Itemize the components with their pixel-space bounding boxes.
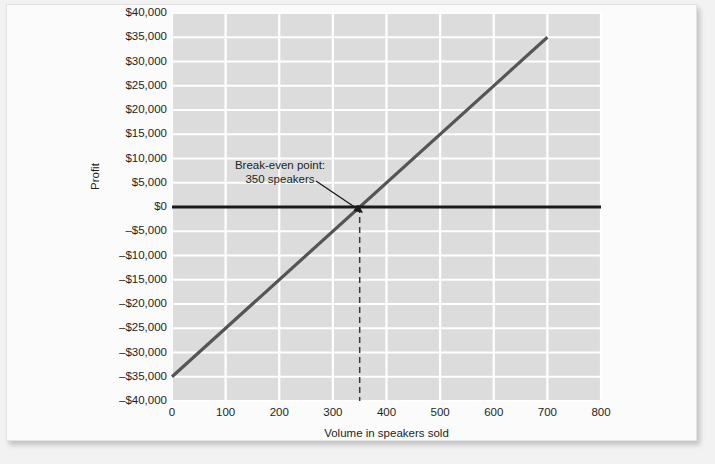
y-tick-label: –$20,000 bbox=[77, 298, 167, 310]
y-tick-label: –$40,000 bbox=[77, 395, 167, 407]
y-tick-label: $15,000 bbox=[77, 129, 167, 141]
y-tick-label: $0 bbox=[77, 201, 167, 213]
y-tick-label: –$15,000 bbox=[77, 274, 167, 286]
x-tick-label: 500 bbox=[410, 407, 470, 419]
y-tick-label: –$5,000 bbox=[77, 226, 167, 238]
y-tick-label: $30,000 bbox=[77, 56, 167, 68]
x-tick-label: 800 bbox=[571, 407, 631, 419]
y-tick-label: $25,000 bbox=[77, 80, 167, 92]
x-tick-label: 100 bbox=[196, 407, 256, 419]
y-tick-label: –$35,000 bbox=[77, 371, 167, 383]
x-tick-label: 400 bbox=[357, 407, 417, 419]
y-axis-title: Profit bbox=[89, 163, 101, 190]
x-tick-label: 600 bbox=[464, 407, 524, 419]
y-axis-tick-labels: $40,000$35,000$30,000$25,000$20,000$15,0… bbox=[75, 13, 167, 401]
y-tick-label: $20,000 bbox=[77, 104, 167, 116]
x-tick-label: 0 bbox=[142, 407, 202, 419]
y-tick-label: –$10,000 bbox=[77, 250, 167, 262]
x-tick-label: 200 bbox=[249, 407, 309, 419]
break-even-chart: $40,000$35,000$30,000$25,000$20,000$15,0… bbox=[7, 5, 698, 442]
y-tick-label: $35,000 bbox=[77, 32, 167, 44]
x-axis-title: Volume in speakers sold bbox=[172, 427, 601, 439]
y-tick-label: $40,000 bbox=[77, 7, 167, 19]
x-tick-label: 300 bbox=[303, 407, 363, 419]
x-axis-tick-labels: 0100200300400500600700800 bbox=[172, 407, 601, 425]
annotation-arrow-icon bbox=[307, 170, 377, 225]
plot-area bbox=[172, 13, 601, 401]
x-tick-label: 700 bbox=[517, 407, 577, 419]
y-tick-label: –$25,000 bbox=[77, 323, 167, 335]
plot-svg bbox=[172, 13, 601, 401]
figure-card: $40,000$35,000$30,000$25,000$20,000$15,0… bbox=[6, 4, 697, 441]
y-tick-label: –$30,000 bbox=[77, 347, 167, 359]
